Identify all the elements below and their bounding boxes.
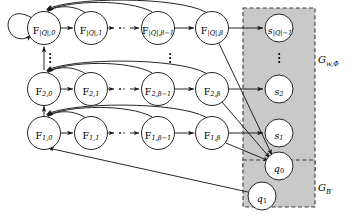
node-q1 bbox=[248, 182, 276, 210]
node-s-Q bbox=[265, 14, 293, 42]
node-F-Q-0 bbox=[28, 12, 61, 45]
figure-canvas: F|Q|,0 F|Q|,1 F|Q|,β−1 F|Q|,β s|Q|−1 F2,… bbox=[0, 0, 358, 216]
node-F-2-b bbox=[196, 73, 229, 106]
node-F-2-1 bbox=[75, 73, 108, 106]
node-F-Q-b bbox=[196, 12, 229, 45]
node-F-2-b1 bbox=[142, 73, 175, 106]
edges-q1 bbox=[48, 148, 248, 192]
node-F-2-0 bbox=[28, 73, 61, 106]
node-F-Q-1 bbox=[75, 12, 108, 45]
diagram-svg bbox=[0, 0, 358, 216]
node-F-1-b bbox=[196, 117, 229, 150]
node-s-2 bbox=[265, 75, 293, 103]
edge-q1-to-F10 bbox=[48, 148, 248, 192]
node-F-1-0 bbox=[28, 117, 61, 150]
node-F-1-1 bbox=[75, 117, 108, 150]
node-s-1 bbox=[265, 119, 293, 147]
group-label-gw: Gw,Φ bbox=[318, 48, 339, 67]
group-label-gb: GB′ bbox=[318, 176, 333, 195]
node-q0 bbox=[265, 152, 293, 180]
node-F-1-b1 bbox=[142, 117, 175, 150]
node-F-Q-b1 bbox=[142, 12, 175, 45]
